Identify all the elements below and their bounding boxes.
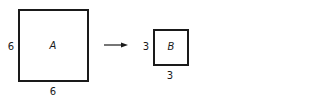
square-b-bottom-label: 3 [167, 71, 173, 81]
square-b-side-label: 3 [143, 42, 149, 52]
square-b-name: B [168, 42, 175, 52]
